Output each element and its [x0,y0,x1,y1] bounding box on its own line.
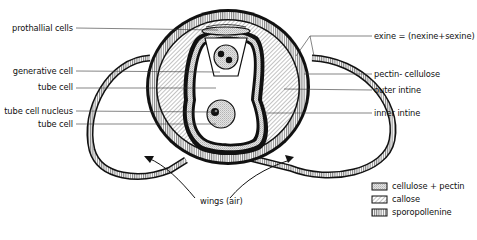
arrow-head-left [144,156,154,163]
label-tube-cell-lower: tube cell [38,119,73,129]
label-tube-cell: tube cell [38,82,73,92]
legend-swatches [372,183,387,216]
label-outer-intine: outer intine [374,85,421,95]
legend-label-cellulose-pectin: cellulose + pectin [392,181,465,191]
label-generative-cell: generative cell [13,66,73,76]
arrow-head-right [285,155,294,163]
label-inner-intine: inner intine [374,108,420,118]
legend-label-sporopollenine: sporopollenine [392,207,452,217]
legend-label-callose: callose [392,194,420,204]
label-tube-cell-nucleus: tube cell nucleus [4,106,73,116]
label-pectin-cellulose: pectin- cellulose [374,69,440,79]
label-prothallial-cells: prothallial cells [12,23,73,33]
label-exine: exine = (nexine+sexine) [374,31,475,41]
label-wings-air: wings (air) [200,196,243,206]
